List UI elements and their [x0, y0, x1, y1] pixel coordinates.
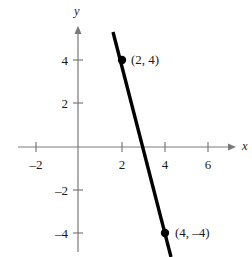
x-tick-label-4: 4 [162, 158, 169, 171]
coordinate-plane-figure: x y –2 2 4 6 4 2 –2 –4 (2, 4) (4, –4) [0, 0, 252, 257]
y-tick-label-neg4: –4 [55, 227, 68, 240]
y-tick-label-2: 2 [62, 97, 69, 110]
y-tick-label-4: 4 [62, 54, 69, 67]
point-label-2-4: (2, 4) [131, 53, 159, 66]
x-tick-label-6: 6 [205, 158, 212, 171]
data-point-marker-4-neg4 [161, 229, 169, 237]
x-tick-label-2: 2 [119, 158, 126, 171]
x-tick-label-neg2: –2 [30, 158, 43, 171]
x-axis-label: x [242, 140, 248, 153]
data-point-marker-2-4 [118, 56, 126, 64]
y-tick-label-neg2: –2 [55, 184, 68, 197]
point-label-4-neg4: (4, –4) [175, 226, 210, 239]
y-axis-label: y [74, 5, 80, 18]
graph-canvas [0, 0, 252, 257]
